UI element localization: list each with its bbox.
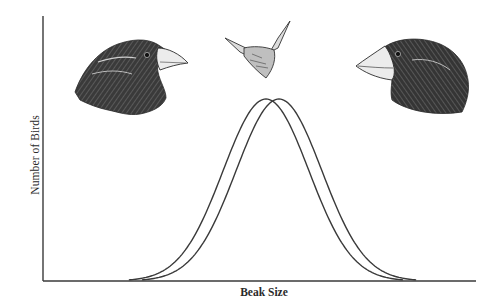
beak-size-distribution-figure: Number of Birds Beak Size <box>0 0 497 307</box>
y-axis-label: Number of Birds <box>29 115 41 194</box>
chart-canvas <box>0 0 497 307</box>
x-axis-label: Beak Size <box>240 286 288 298</box>
finch-head-small-beak-icon <box>75 40 188 115</box>
finch-head-large-beak-icon <box>356 39 469 113</box>
seed-icon <box>225 21 290 78</box>
